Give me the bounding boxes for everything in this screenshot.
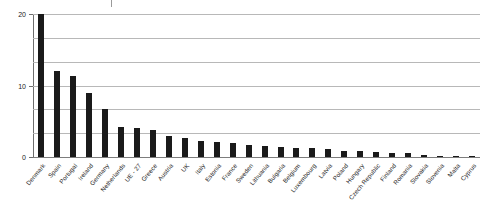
y-tick-label-0: 0 [22, 154, 26, 161]
bar-slot [113, 14, 129, 157]
bar [453, 156, 459, 157]
x-axis-baseline [33, 157, 480, 158]
bar-slot [464, 14, 480, 157]
bar [38, 14, 44, 157]
bar-slot [161, 14, 177, 157]
bar [54, 71, 60, 158]
bar-slot [81, 14, 97, 157]
bar-slot [320, 14, 336, 157]
bar [230, 143, 236, 157]
bar-slot [432, 14, 448, 157]
x-label-slot: Austria [161, 160, 177, 217]
bar [325, 149, 331, 157]
bar-series [33, 14, 480, 157]
x-label-slot: Estonia [209, 160, 225, 217]
bar-slot [241, 14, 257, 157]
bar [150, 130, 156, 157]
x-label-slot: Lithuania [257, 160, 273, 217]
y-tick-label-10: 10 [18, 82, 26, 89]
x-label-slot: Greece [145, 160, 161, 217]
bar [278, 147, 284, 157]
bar-slot [368, 14, 384, 157]
bar [86, 93, 92, 157]
bar-slot [129, 14, 145, 157]
bar-slot [33, 14, 49, 157]
x-label-slot: Latvia [320, 160, 336, 217]
bar-chart: 20 10 0 DenmarkSpainPortugalIrelandGerma… [0, 0, 503, 217]
x-label-slot: Italy [193, 160, 209, 217]
x-label-slot: Ireland [81, 160, 97, 217]
bar [182, 138, 188, 157]
x-label-slot: UK [177, 160, 193, 217]
x-label-slot: Malta [448, 160, 464, 217]
x-axis-labels: DenmarkSpainPortugalIrelandGermanyNether… [33, 160, 480, 217]
x-axis-tick-label: UK [179, 162, 190, 173]
bar-slot [352, 14, 368, 157]
x-label-slot: Czech Republic [368, 160, 384, 217]
bar-slot [193, 14, 209, 157]
bar [373, 152, 379, 157]
y-tick-label-20: 20 [18, 11, 26, 18]
bar [389, 153, 395, 157]
bar [118, 127, 124, 157]
bar [166, 136, 172, 157]
x-label-slot: Luxembourg [304, 160, 320, 217]
bar [357, 151, 363, 157]
x-label-slot: Netherlands [113, 160, 129, 217]
x-label-slot: UE - 27 [129, 160, 145, 217]
bar [293, 148, 299, 157]
bar [214, 142, 220, 157]
bar-slot [209, 14, 225, 157]
x-label-slot: Slovenia [432, 160, 448, 217]
bar [246, 145, 252, 157]
bar-slot [225, 14, 241, 157]
bar-slot [65, 14, 81, 157]
bar-slot [304, 14, 320, 157]
bar [134, 128, 140, 157]
bar-slot [448, 14, 464, 157]
bar-slot [336, 14, 352, 157]
bar [421, 155, 427, 157]
x-label-slot: Cyprus [464, 160, 480, 217]
x-label-slot: Slovakia [416, 160, 432, 217]
bar-slot [177, 14, 193, 157]
top-tick-mark [111, 0, 112, 7]
x-label-slot: Denmark [33, 160, 49, 217]
x-label-slot: Romania [400, 160, 416, 217]
bar-slot [257, 14, 273, 157]
bar [198, 141, 204, 157]
bar-slot [145, 14, 161, 157]
bar-slot [273, 14, 289, 157]
bar-slot [49, 14, 65, 157]
x-label-slot: Finland [384, 160, 400, 217]
x-label-slot: Poland [336, 160, 352, 217]
x-label-slot: Sweden [241, 160, 257, 217]
y-axis-labels: 20 10 0 [0, 0, 31, 217]
x-axis-tick-label: Italy [193, 162, 206, 176]
x-label-slot: Bulgaria [273, 160, 289, 217]
bar-slot [384, 14, 400, 157]
bar [405, 153, 411, 157]
x-label-slot: Spain [49, 160, 65, 217]
bar [437, 156, 443, 157]
bar [70, 76, 76, 158]
x-label-slot: France [225, 160, 241, 217]
bar-slot [400, 14, 416, 157]
bar [341, 151, 347, 157]
plot-area [33, 14, 480, 157]
x-label-slot: Portugal [65, 160, 81, 217]
bar [469, 156, 475, 157]
bar-slot [97, 14, 113, 157]
bar-slot [416, 14, 432, 157]
bar [309, 148, 315, 157]
bar [262, 146, 268, 157]
bar [102, 109, 108, 157]
bar-slot [289, 14, 305, 157]
